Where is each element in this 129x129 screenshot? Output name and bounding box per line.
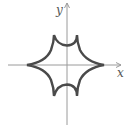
y-axis-label: y	[55, 3, 63, 17]
x-axis-label: x	[117, 66, 124, 80]
curve-diagram: y x	[0, 0, 129, 129]
y-axis	[65, 3, 70, 125]
